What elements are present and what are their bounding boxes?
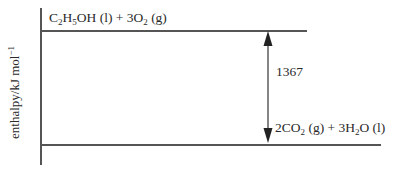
- enthalpy-change-arrow: [0, 0, 412, 176]
- enthalpy-change-value: 1367: [276, 65, 303, 79]
